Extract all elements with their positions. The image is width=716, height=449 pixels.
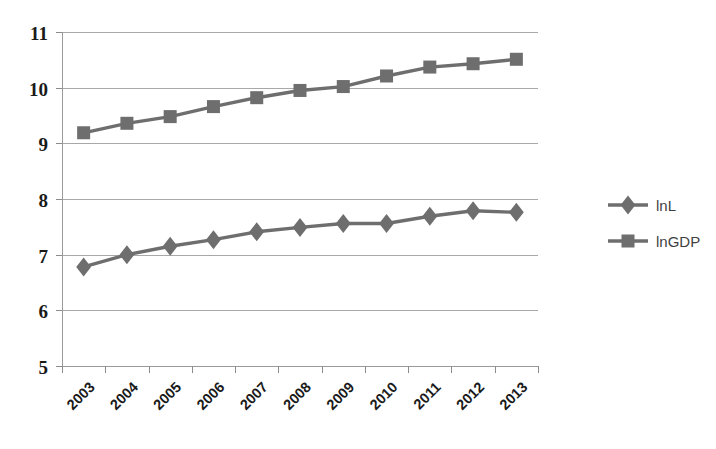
- data-point-marker: [207, 100, 220, 113]
- x-axis-tick-label: 2013: [496, 379, 530, 413]
- data-point-marker: [423, 61, 436, 74]
- legend-marker-square: [622, 235, 635, 248]
- line-chart: 111098765 200320042005200620072008200920…: [0, 0, 716, 449]
- x-axis-tick-label: 2005: [150, 379, 184, 413]
- x-axis-tick-label: 2003: [64, 379, 98, 413]
- chart-container: 111098765 200320042005200620072008200920…: [0, 0, 716, 449]
- data-point-marker: [120, 117, 133, 130]
- y-axis-tick-label: 8: [39, 190, 49, 211]
- x-axis-tick-label: 2010: [367, 379, 401, 413]
- x-axis-tick-label: 2009: [323, 379, 357, 413]
- y-axis-tick-label: 9: [39, 134, 49, 155]
- legend-item-lnGDP[interactable]: lnGDP: [608, 233, 700, 250]
- data-point-marker: [77, 126, 90, 139]
- x-axis-tick-label: 2004: [107, 379, 141, 413]
- y-axis-tick-label: 10: [29, 79, 48, 100]
- legend-marker-diamond: [621, 196, 636, 215]
- y-axis-tick-label: 11: [30, 23, 48, 44]
- legend-label: lnGDP: [656, 233, 700, 250]
- data-point-marker: [337, 80, 350, 93]
- x-axis-tick-label: 2007: [237, 379, 271, 413]
- x-axis-tick-label: 2011: [410, 379, 444, 413]
- data-point-marker: [250, 91, 263, 104]
- legend-label: lnL: [656, 197, 676, 214]
- chart-legend: lnLlnGDP: [608, 196, 700, 250]
- data-point-marker: [467, 57, 480, 70]
- y-axis-tick-labels: 111098765: [29, 23, 49, 378]
- y-axis-tick-label: 7: [39, 246, 49, 267]
- data-point-marker: [380, 69, 393, 82]
- x-axis-ticks: [63, 366, 539, 373]
- legend-item-lnL[interactable]: lnL: [608, 196, 676, 215]
- y-axis-tick-label: 6: [39, 301, 49, 322]
- x-axis-tick-label: 2008: [280, 379, 314, 413]
- data-point-marker: [164, 110, 177, 123]
- x-axis-tick-labels: 2003200420052006200720082009201020112012…: [64, 379, 531, 413]
- data-point-marker: [510, 53, 523, 66]
- data-point-marker: [294, 84, 307, 97]
- x-axis-tick-label: 2006: [193, 379, 227, 413]
- y-axis-tick-label: 5: [39, 357, 49, 378]
- x-axis-tick-label: 2012: [453, 379, 487, 413]
